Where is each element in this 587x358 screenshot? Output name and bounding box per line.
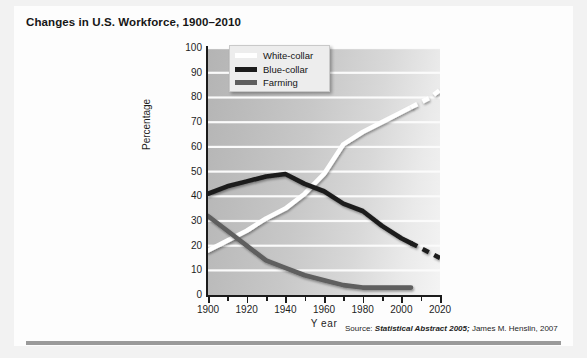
y-axis-tick-label: 60 bbox=[174, 141, 202, 152]
source-title: Statistical Abstract 2005; bbox=[375, 324, 470, 333]
x-axis-tick-label: 1980 bbox=[352, 304, 374, 315]
series-projection-line bbox=[411, 90, 440, 107]
series-line bbox=[208, 107, 411, 250]
x-axis-minor-tick bbox=[305, 297, 307, 301]
chart-legend: White-collarBlue-collarFarming bbox=[229, 45, 330, 92]
x-axis-tick bbox=[401, 297, 403, 303]
x-axis-tick-label: 2020 bbox=[429, 304, 451, 315]
y-axis-tick-label: 10 bbox=[174, 264, 202, 275]
x-axis-tick-label: 1940 bbox=[274, 304, 296, 315]
x-axis-tick-label: 2000 bbox=[390, 304, 412, 315]
legend-item-farming[interactable]: Farming bbox=[230, 76, 329, 90]
legend-swatch-icon bbox=[235, 53, 257, 58]
y-axis-line bbox=[206, 46, 208, 297]
x-axis-tick bbox=[208, 297, 210, 303]
y-axis-tick-label: 30 bbox=[174, 215, 202, 226]
legend-swatch-icon bbox=[235, 80, 257, 85]
legend-item-label: White-collar bbox=[263, 50, 313, 61]
source-attribution: James M. Henslin, 2007 bbox=[472, 324, 558, 333]
y-axis-tick-label: 0 bbox=[174, 289, 202, 300]
y-axis-label: Percentage bbox=[141, 99, 152, 150]
x-axis-tick bbox=[324, 297, 326, 303]
figure-page: Changes in U.S. Workforce, 1900–2010 100… bbox=[0, 0, 587, 358]
x-axis-minor-tick bbox=[343, 297, 345, 301]
x-axis-minor-tick bbox=[382, 297, 384, 301]
source-lead: Source: bbox=[345, 324, 373, 333]
x-axis-tick-label: 1900 bbox=[197, 304, 219, 315]
y-axis-tick-label: 20 bbox=[174, 240, 202, 251]
x-axis-minor-tick bbox=[227, 297, 229, 301]
x-axis-tick-label: 1960 bbox=[313, 304, 335, 315]
y-axis-tick-label: 70 bbox=[174, 116, 202, 127]
x-axis-tick-label: 1920 bbox=[236, 304, 258, 315]
x-axis-minor-tick bbox=[421, 297, 423, 301]
x-axis-tick bbox=[285, 297, 287, 303]
legend-item-blue-collar[interactable]: Blue-collar bbox=[230, 63, 329, 77]
source-note: Source: Statistical Abstract 2005; James… bbox=[345, 324, 558, 333]
x-axis-tick bbox=[440, 297, 442, 303]
series-projection-line bbox=[411, 243, 440, 258]
y-axis-tick-label: 80 bbox=[174, 91, 202, 102]
legend-item-label: Blue-collar bbox=[263, 64, 308, 75]
y-axis-tick-label: 50 bbox=[174, 166, 202, 177]
bottom-divider bbox=[26, 341, 561, 345]
legend-swatch-icon bbox=[235, 67, 257, 72]
y-axis-tick-labels: 1009080706050403020100 bbox=[172, 48, 202, 295]
x-axis-tick bbox=[363, 297, 365, 303]
y-axis-tick-label: 90 bbox=[174, 67, 202, 78]
y-axis-tick-label: 40 bbox=[174, 190, 202, 201]
x-axis-tick bbox=[247, 297, 249, 303]
y-axis-tick-label: 100 bbox=[174, 42, 202, 53]
legend-item-label: Farming bbox=[263, 77, 298, 88]
x-axis-label: Y ear bbox=[311, 318, 338, 329]
legend-item-white-collar[interactable]: White-collar bbox=[230, 49, 329, 63]
x-axis-minor-tick bbox=[266, 297, 268, 301]
chart-canvas: 1009080706050403020100 19001920194019601… bbox=[0, 0, 587, 358]
